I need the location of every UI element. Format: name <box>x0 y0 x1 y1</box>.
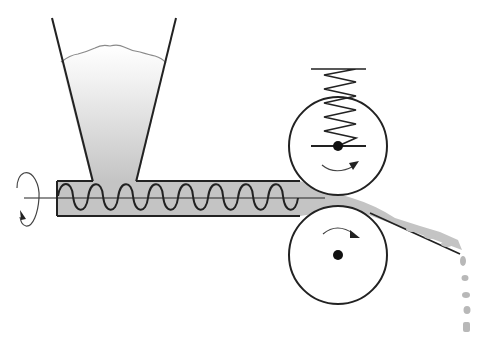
rotation-indicator <box>17 173 39 226</box>
falling-pieces <box>460 256 471 332</box>
rotation-arc <box>17 173 39 226</box>
bottom-roller-axle <box>333 250 343 260</box>
hopper <box>52 18 176 182</box>
rotation-arrow-icon <box>20 210 26 220</box>
top-roller-axle <box>333 141 343 151</box>
bottom-roller <box>289 206 387 304</box>
extruder-roller-diagram <box>0 0 495 348</box>
diagram-canvas <box>0 0 495 348</box>
top-roller <box>289 69 387 195</box>
